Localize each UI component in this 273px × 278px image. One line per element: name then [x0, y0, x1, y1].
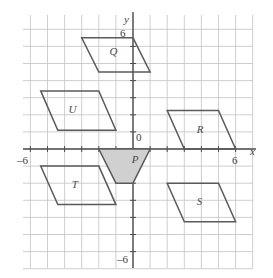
parallelogram-label-s: S: [197, 196, 203, 207]
x-axis-max-label: 6: [232, 155, 238, 166]
parallelogram-group: [41, 38, 236, 222]
coordinate-plane-figure: y x 0 6 –6 –6 6 PQRSTU: [0, 0, 273, 278]
y-axis-max-label: 6: [120, 28, 126, 39]
parallelogram-label-p: P: [132, 154, 139, 165]
y-axis-label: y: [124, 14, 129, 25]
parallelogram-t: [41, 166, 116, 205]
parallelogram-label-t: T: [72, 179, 78, 190]
parallelogram-label-r: R: [197, 124, 204, 135]
parallelogram-label-q: Q: [109, 46, 117, 57]
x-axis-min-label: –6: [17, 155, 28, 166]
x-axis-label: x: [250, 146, 255, 157]
y-axis-min-label: –6: [117, 254, 128, 265]
parallelogram-label-u: U: [68, 104, 76, 115]
origin-label: 0: [136, 132, 142, 143]
parallelogram-u: [41, 91, 116, 130]
